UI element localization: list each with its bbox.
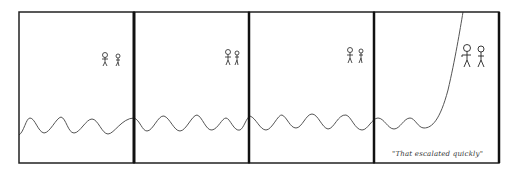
stick-figures-panel-1 <box>102 53 120 67</box>
comic-strip <box>0 0 515 172</box>
caption-text: "That escalated quickly" <box>392 150 492 158</box>
wave-line <box>19 12 463 135</box>
panel-4-border <box>374 12 499 163</box>
panel-3-border <box>249 12 374 163</box>
stick-figures-panel-4 <box>462 45 484 68</box>
panel-1-border <box>19 12 134 163</box>
stick-figures-panel-3 <box>347 48 363 64</box>
stick-figures-panel-2 <box>225 50 239 66</box>
panel-2-border <box>134 12 249 163</box>
